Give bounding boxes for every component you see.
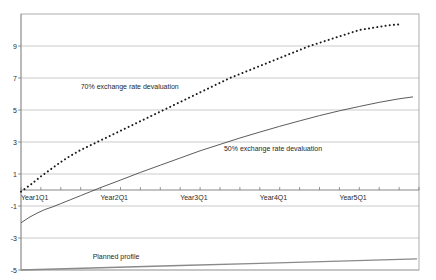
x-tick-label: Year5Q1 — [339, 194, 366, 202]
y-tick-label: -5 — [11, 267, 17, 274]
x-tick-label: Year4Q1 — [260, 194, 287, 202]
series-annotation-0: 70% exchange rate devaluation — [81, 83, 179, 91]
y-tick-label: 5 — [13, 107, 17, 114]
x-axis-tick-marks — [21, 187, 419, 190]
y-axis-tick-labels: 97531-1-3-5 — [11, 43, 21, 274]
x-tick-label: Year3Q1 — [180, 194, 207, 202]
x-tick-label: Year1Q1 — [21, 194, 48, 202]
line-chart: 97531-1-3-5 Year1Q1Year2Q1Year3Q1Year4Q1… — [0, 0, 436, 280]
x-tick-label: Year2Q1 — [101, 194, 128, 202]
series-annotation-2: Planned profile — [93, 253, 140, 261]
y-tick-label: -3 — [11, 235, 17, 242]
y-tick-label: 9 — [13, 43, 17, 50]
y-tick-label: 1 — [13, 171, 17, 178]
series-annotation-1: 50% exchange rate devaluation — [224, 145, 322, 153]
y-tick-label: 7 — [13, 75, 17, 82]
y-tick-label: -1 — [11, 203, 17, 210]
y-tick-label: 3 — [13, 139, 17, 146]
chart-container: 97531-1-3-5 Year1Q1Year2Q1Year3Q1Year4Q1… — [0, 0, 436, 280]
